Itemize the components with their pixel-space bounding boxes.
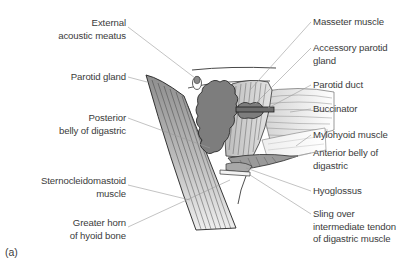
label-accessory-parotid-gland: Accessory parotid gland: [313, 42, 388, 67]
label-sling-over-intermediate-tendon: Sling over intermediate tendon of digast…: [313, 208, 396, 246]
label-masseter-muscle: Masseter muscle: [313, 16, 384, 29]
label-sternocleidomastoid-muscle: Sternocleidomastoid muscle: [41, 175, 126, 200]
label-posterior-belly-of-digastric: Posterior belly of digastric: [59, 112, 126, 137]
label-greater-horn-of-hyoid-bone: Greater horn of hyoid bone: [70, 217, 126, 242]
label-parotid-duct: Parotid duct: [313, 79, 363, 92]
label-parotid-gland: Parotid gland: [71, 71, 126, 84]
label-external-acoustic-meatus: External acoustic meatus: [58, 17, 126, 42]
label-mylohyoid-muscle: Mylohyoid muscle: [313, 129, 388, 142]
external-acoustic-meatus: [193, 76, 202, 89]
panel-label: (a): [5, 246, 18, 258]
label-anterior-belly-of-digastric: Anterior belly of digastric: [313, 147, 378, 172]
label-buccinator: Buccinator: [313, 103, 357, 116]
label-hyoglossus: Hyoglossus: [313, 185, 362, 198]
